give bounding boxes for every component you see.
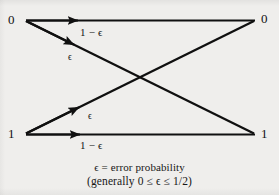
edge-label-zero-to-zero: 1 − ϵ (80, 27, 103, 38)
edge-zero-to-one-arrowhead (26, 21, 74, 45)
node-input-0: 0 (8, 13, 15, 26)
caption-line-1: ϵ = error probability (0, 160, 279, 174)
caption-line-2: (generally 0 ≤ ϵ ≤ 1/2) (0, 174, 279, 188)
node-input-1: 1 (8, 127, 15, 140)
edge-label-one-to-zero: ϵ (88, 112, 92, 122)
edge-label-zero-to-one: ϵ (68, 53, 72, 63)
bsc-figure: 0 0 1 1 1 − ϵ ϵ ϵ 1 − ϵ ϵ = error probab… (0, 0, 279, 195)
node-output-0: 0 (261, 12, 268, 25)
node-output-1: 1 (261, 127, 268, 140)
figure-caption: ϵ = error probability (generally 0 ≤ ϵ ≤… (0, 160, 279, 188)
edge-label-one-to-one: 1 − ϵ (80, 140, 103, 151)
edge-one-to-zero-arrowhead (26, 107, 79, 133)
